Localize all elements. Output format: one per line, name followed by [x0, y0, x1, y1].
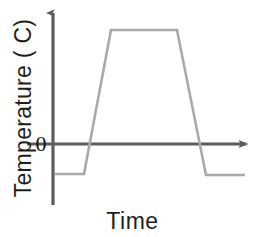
temperature-time-graph: 0 Temperature ( C) Time: [0, 0, 265, 237]
plot-area: [0, 0, 265, 237]
temperature-curve: [55, 30, 245, 175]
x-axis-label: Time: [0, 207, 265, 235]
y-axis-label: Temperature ( C): [10, 0, 36, 218]
